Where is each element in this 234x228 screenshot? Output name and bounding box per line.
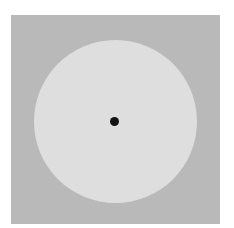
center-dot bbox=[110, 117, 119, 126]
grey-square-background bbox=[11, 15, 220, 224]
light-circle bbox=[34, 40, 197, 203]
